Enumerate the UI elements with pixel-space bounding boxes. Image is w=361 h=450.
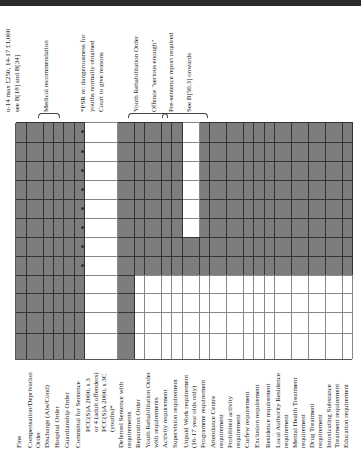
grid-cell xyxy=(227,312,244,333)
row-label: Fine xyxy=(15,436,23,448)
grid-cell xyxy=(200,122,210,142)
grid-cell xyxy=(54,161,64,180)
grid-cell xyxy=(145,161,162,180)
grid-cell xyxy=(343,275,353,293)
grid-cell xyxy=(44,142,54,161)
grid-cell xyxy=(183,142,200,161)
grid-cell xyxy=(244,161,254,180)
grid-cell xyxy=(309,237,326,256)
row-label: requirements xyxy=(125,411,133,448)
grid-cell xyxy=(292,142,309,161)
grid-cell xyxy=(254,333,265,359)
row-label: or 4 (adult offenders) xyxy=(92,372,100,432)
dot-marker xyxy=(81,207,84,210)
row-label: Education requirement xyxy=(342,384,350,448)
grid-cell xyxy=(326,122,343,142)
row-label: Attendance Centre xyxy=(209,396,217,448)
grid-cell xyxy=(85,293,118,312)
grid-cell xyxy=(64,312,75,333)
grid-cell xyxy=(54,275,64,293)
grid-cell xyxy=(64,199,75,218)
grid-cell xyxy=(85,333,118,359)
row-label: Activity requirement xyxy=(161,389,169,448)
grid-cell xyxy=(244,218,254,237)
row-label: requirement xyxy=(234,414,242,448)
row-label: Compensation/Deprivation xyxy=(26,372,34,448)
grid-cell xyxy=(265,312,275,333)
grid-cell xyxy=(244,142,254,161)
grid-cell xyxy=(16,312,27,333)
grid-cell xyxy=(54,122,64,142)
grid-cell xyxy=(75,333,85,359)
grid-cell xyxy=(265,237,275,256)
grid-cell xyxy=(145,275,162,293)
grid-cell xyxy=(135,312,145,333)
grid-cell xyxy=(275,199,292,218)
grid-cell xyxy=(64,275,75,293)
row-label: Reparation Order xyxy=(134,399,142,448)
row-label: Exclusion requirement xyxy=(253,384,261,448)
grid-cell xyxy=(27,237,44,256)
row-label: Curfew requirement xyxy=(243,391,251,448)
grid-cell xyxy=(183,122,200,142)
grid-cell xyxy=(54,293,64,312)
grid-cell xyxy=(183,256,200,275)
grid-cell xyxy=(265,333,275,359)
grid-cell xyxy=(145,312,162,333)
grid-cell xyxy=(44,237,54,256)
grid-cell xyxy=(54,218,64,237)
grid-cell xyxy=(135,142,145,161)
dot-marker xyxy=(81,264,84,267)
grid-cell xyxy=(64,333,75,359)
grid-cell xyxy=(172,218,183,237)
grid-cell xyxy=(135,275,145,293)
grid-cell xyxy=(244,312,254,333)
grid-cell xyxy=(309,180,326,199)
note-text: Medical recommendation xyxy=(42,40,50,112)
grid-cell xyxy=(326,180,343,199)
grid-cell xyxy=(210,218,227,237)
grid-cell xyxy=(275,237,292,256)
grid-cell xyxy=(118,142,135,161)
grid-cell xyxy=(200,199,210,218)
grid-cell xyxy=(172,142,183,161)
grid-cell xyxy=(326,275,343,293)
grid-cell xyxy=(85,256,118,275)
grid-cell xyxy=(326,161,343,180)
grid-cell xyxy=(210,180,227,199)
grid-cell xyxy=(44,333,54,359)
grid-cell xyxy=(162,142,172,161)
grid-cell xyxy=(244,122,254,142)
grid-cell xyxy=(275,142,292,161)
grid-cell xyxy=(118,161,135,180)
grid-cell xyxy=(54,237,64,256)
grid-cell xyxy=(200,275,210,293)
note-text: see B[18] and B[34] xyxy=(13,55,21,112)
grid-cell xyxy=(135,293,145,312)
notes-column: u-14 max £250, 14-17 £1,000see B[18] and… xyxy=(0,0,361,118)
grid-cell xyxy=(254,312,265,333)
grid-cell xyxy=(54,199,64,218)
row-label: Treatment requirement xyxy=(333,384,341,448)
dot-marker xyxy=(81,188,84,191)
grid-cell xyxy=(265,218,275,237)
grid-cell xyxy=(172,312,183,333)
grid-cell xyxy=(54,180,64,199)
grid-cell xyxy=(162,256,172,275)
grid-cell xyxy=(44,199,54,218)
grid-cell xyxy=(162,293,172,312)
grid-cell xyxy=(16,333,27,359)
grid-cell xyxy=(210,256,227,275)
grid-cell xyxy=(27,161,44,180)
grid-cell xyxy=(343,180,353,199)
grid-cell xyxy=(27,122,44,142)
grid-cell xyxy=(75,275,85,293)
grid-cell xyxy=(135,180,145,199)
grid-cell xyxy=(210,199,227,218)
grid-cell xyxy=(118,199,135,218)
grid-cell xyxy=(275,180,292,199)
grid-cell xyxy=(200,256,210,275)
note-text: youths normally obtained xyxy=(88,40,96,112)
grid-cell xyxy=(292,180,309,199)
grid-cell xyxy=(343,218,353,237)
